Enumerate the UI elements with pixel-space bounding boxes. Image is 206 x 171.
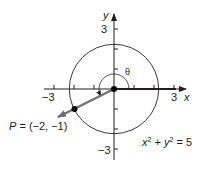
circle-equation: x2 + y2 = 5	[141, 136, 192, 148]
y-tick-label-3: 3	[101, 23, 107, 35]
y-tick-label-neg3: −3	[98, 144, 111, 156]
origin-dot	[111, 86, 117, 92]
x-tick-label-neg3: −3	[42, 91, 55, 103]
y-axis-label: y	[102, 9, 110, 21]
point-p	[72, 106, 78, 112]
terminal-ray	[58, 89, 114, 117]
coordinate-diagram: y x 3 −3 −3 3 θ P = (−2, −1) x2 + y2 = 5	[0, 0, 206, 171]
x-tick-label-3: 3	[171, 91, 177, 103]
theta-label: θ	[125, 67, 130, 77]
x-axis-label: x	[183, 91, 190, 103]
point-p-label: P = (−2, −1)	[9, 120, 67, 132]
